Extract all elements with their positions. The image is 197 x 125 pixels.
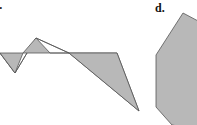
polygons-figure [0, 0, 197, 125]
polygon-c-fill [0, 38, 139, 111]
polygon-d [156, 13, 197, 125]
